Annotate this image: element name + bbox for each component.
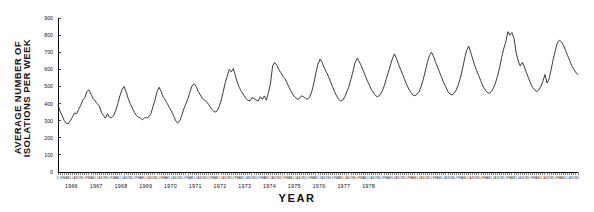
x-axis-year-labels: 1966196719681969197019711972197319741975… [65,183,375,189]
x-axis-year-label: 1966 [65,183,78,189]
x-axis-year-label: 1970 [164,183,177,189]
line-chart-plot: 0100200300400500600700800900 DJFMAMJJASO… [0,0,594,212]
y-axis-tick-label: 900 [44,15,53,21]
y-axis-title: AVERAGE NUMBER OF ISOLATIONS PER WEEK [2,14,42,182]
y-axis-tick-label: 100 [44,152,53,158]
x-axis-year-label: 1974 [263,183,276,189]
x-axis-year-label: 1978 [362,183,375,189]
y-axis-title-line-2: ISOLATIONS PER WEEK [22,39,32,157]
x-axis-year-label: 1975 [288,183,301,189]
x-axis-year-label: 1971 [189,183,202,189]
y-axis-tick-label: 500 [44,83,53,89]
x-axis-year-label: 1972 [214,183,227,189]
y-axis-tick-label: 300 [44,118,53,124]
chart-figure: AVERAGE NUMBER OF ISOLATIONS PER WEEK 01… [0,0,594,212]
y-axis-tick-label: 800 [44,32,53,38]
x-axis-year-label: 1976 [313,183,326,189]
x-axis-month-labels: DJFMAMJJASONDJFMAMJJASONDJFMAMJJASONDJFM… [57,176,579,180]
y-axis-tick-label: 0 [50,169,53,175]
x-axis-year-label: 1973 [238,183,251,189]
x-axis-month-label: D [577,176,579,180]
y-axis-tick-labels: 0100200300400500600700800900 [44,15,53,175]
x-axis-year-label: 1969 [139,183,152,189]
x-axis-title: YEAR [0,192,594,204]
x-axis-year-label: 1977 [337,183,350,189]
y-axis-tick-label: 200 [44,135,53,141]
x-axis-year-label: 1968 [115,183,128,189]
y-axis-tick-label: 400 [44,101,53,107]
data-series-line [58,32,578,124]
y-axis-tick-label: 700 [44,49,53,55]
y-axis-tick-label: 600 [44,66,53,72]
x-axis-year-label: 1967 [90,183,103,189]
